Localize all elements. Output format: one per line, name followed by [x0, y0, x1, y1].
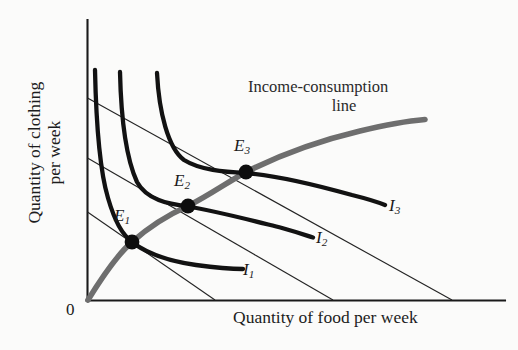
income-consumption-line-label: Income-consumption line	[248, 78, 426, 115]
equilibrium-label-E3: E3	[234, 136, 250, 156]
equilibrium-label-E1-subscript: 1	[124, 214, 130, 226]
income-consumption-label-line1: Income-consumption	[248, 77, 388, 96]
equilibrium-label-E1: E1	[114, 206, 130, 226]
equilibrium-label-E1-letter: E	[114, 206, 124, 225]
income-consumption-line	[88, 120, 425, 301]
y-axis-title-line2: per week	[44, 121, 64, 185]
equilibrium-label-E2: E2	[174, 171, 190, 191]
equilibrium-marker-E1	[125, 235, 140, 250]
indifference-curve-label-I2-subscript: 2	[322, 236, 328, 248]
indifference-curve-label-I1-subscript: 1	[249, 268, 255, 280]
y-axis-title: Quantity of clothing per week	[25, 38, 64, 268]
income-consumption-label-line2: line	[248, 97, 426, 116]
equilibrium-marker-E3	[239, 165, 254, 180]
indifference-curve-label-I2: I2	[316, 228, 327, 248]
x-axis-title: Quantity of food per week	[233, 307, 418, 328]
equilibrium-label-E3-letter: E	[234, 136, 244, 155]
equilibrium-marker-E2	[181, 199, 196, 214]
indifference-curve-label-I3-subscript: 3	[395, 204, 401, 216]
y-axis-title-line1: Quantity of clothing	[24, 82, 44, 224]
equilibrium-label-E2-subscript: 2	[184, 179, 190, 191]
axis-lines	[87, 20, 506, 301]
indifference-curve-label-I1: I1	[243, 260, 254, 280]
equilibrium-label-E2-letter: E	[174, 171, 184, 190]
income-consumption-curve-figure: Quantity of clothing per week Quantity o…	[0, 0, 518, 350]
chart-canvas	[0, 0, 518, 350]
equilibrium-label-E3-subscript: 3	[244, 144, 250, 156]
origin-label: 0	[66, 300, 75, 320]
indifference-curve-label-I3: I3	[389, 196, 400, 216]
